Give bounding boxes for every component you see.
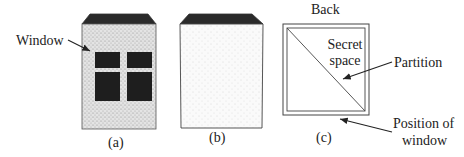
position-label-2: window <box>402 134 447 148</box>
caption-a: (a) <box>108 136 124 150</box>
window-label: Window <box>16 34 64 48</box>
panel-b-box <box>180 14 263 128</box>
box-a-lid <box>82 14 156 24</box>
box-b-body <box>180 24 263 128</box>
window-left <box>95 52 120 101</box>
secret-space-label-2: space <box>326 54 364 68</box>
secret-space-label-1: Secret <box>326 38 364 52</box>
window-right <box>127 52 152 101</box>
caption-b: (b) <box>209 131 225 145</box>
partition-label: Partition <box>394 56 442 70</box>
caption-c: (c) <box>316 131 332 145</box>
position-label-1: Position of <box>393 117 454 131</box>
back-label: Back <box>311 3 340 17</box>
position-arrow <box>340 119 392 132</box>
panel-a-box <box>82 14 156 129</box>
diagram-canvas <box>0 0 464 157</box>
box-b-lid <box>180 14 263 24</box>
